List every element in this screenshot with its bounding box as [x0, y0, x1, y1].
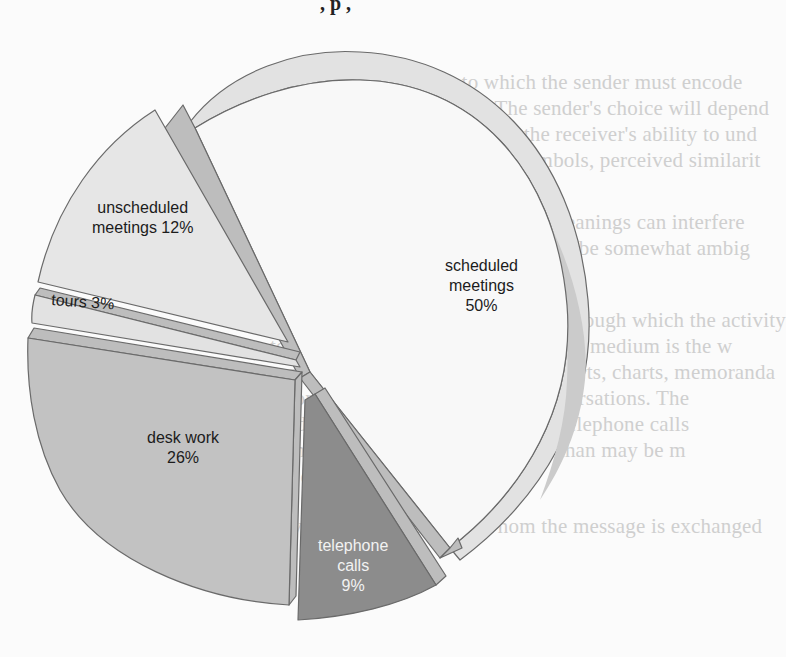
- label-line: scheduled: [445, 256, 518, 276]
- label-unscheduled-meetings: unscheduled meetings 12%: [92, 198, 193, 238]
- label-line: unscheduled: [92, 198, 193, 218]
- label-desk-work: desk work 26%: [147, 428, 219, 468]
- label-line: 26%: [147, 448, 219, 468]
- label-tours: tours 3%: [51, 290, 115, 314]
- label-line: meetings: [445, 276, 518, 296]
- label-scheduled-meetings: scheduled meetings 50%: [445, 256, 518, 316]
- label-line: tours 3%: [51, 290, 115, 314]
- label-line: meetings 12%: [92, 218, 193, 238]
- label-line: desk work: [147, 428, 219, 448]
- label-line: 9%: [318, 576, 388, 596]
- label-line: calls: [318, 556, 388, 576]
- label-line: telephone: [318, 536, 388, 556]
- label-line: 50%: [445, 296, 518, 316]
- label-telephone-calls: telephone calls 9%: [318, 536, 388, 596]
